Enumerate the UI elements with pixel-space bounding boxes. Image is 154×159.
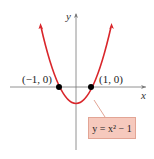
x-axis-label: x: [140, 89, 146, 101]
curve-arrow-right-icon: [109, 23, 114, 29]
point-neg1-0: [56, 84, 62, 90]
equation-label: y = x² − 1: [88, 117, 136, 139]
point-1-0: [88, 84, 94, 90]
point-label-right: (1, 0): [99, 73, 123, 86]
point-label-left: (−1, 0): [22, 73, 52, 86]
label-pointer: [94, 100, 105, 117]
y-axis-label: y: [65, 10, 71, 22]
chart-figure: y x (−1, 0) (1, 0) y = x² − 1: [0, 0, 154, 159]
